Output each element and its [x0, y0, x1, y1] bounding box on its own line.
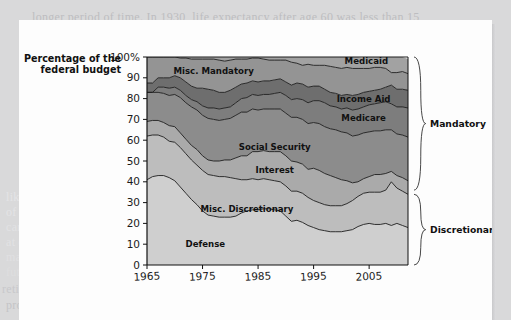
figure-panel: 0102030405060708090100%19651975198519952…	[19, 20, 492, 320]
y-tick-label: 30	[127, 196, 140, 208]
y-axis-title: federal budget	[41, 64, 122, 75]
series-label: Misc. Discretionary	[200, 204, 293, 214]
brace-mandatory: Mandatory	[414, 57, 486, 190]
y-tick-label: 20	[127, 217, 140, 229]
brace-label: Mandatory	[430, 118, 486, 129]
x-tick-label: 1985	[244, 269, 271, 282]
y-tick-label: 50	[127, 155, 140, 167]
x-tick-label: 1995	[300, 269, 327, 282]
x-tick-label: 1965	[133, 269, 160, 282]
y-tick-label: 0	[133, 259, 140, 271]
series-label: Interest	[255, 165, 294, 175]
series-label: Medicaid	[345, 56, 388, 66]
y-tick-label: 60	[127, 134, 140, 146]
series-label: Misc. Mandatory	[174, 66, 255, 76]
brace-path	[414, 57, 426, 190]
stacked-area-chart: 0102030405060708090100%19651975198519952…	[19, 20, 492, 320]
series-label: Income Aid	[337, 94, 391, 104]
x-tick-label: 1975	[189, 269, 216, 282]
series-label: Social Security	[239, 142, 311, 152]
series-label: Defense	[186, 239, 226, 249]
y-tick-label: 90	[127, 71, 140, 83]
y-tick-label: 10	[127, 238, 140, 250]
brace-label: Discretionary	[430, 224, 492, 235]
brace-path	[414, 194, 426, 265]
y-tick-label: 40	[127, 175, 140, 187]
y-tick-label: 70	[127, 113, 140, 125]
y-axis-title: Percentage of the	[24, 53, 122, 64]
y-tick-label: 80	[127, 92, 140, 104]
series-label: Medicare	[341, 113, 386, 123]
x-tick-label: 2005	[355, 269, 382, 282]
brace-discretionary: Discretionary	[414, 194, 492, 265]
